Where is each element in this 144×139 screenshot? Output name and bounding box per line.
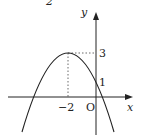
top-fragment-label: 2 xyxy=(45,0,53,8)
tick-label-neg2: −2 xyxy=(58,101,74,114)
origin-label: O xyxy=(86,101,95,114)
x-axis-label: x xyxy=(127,101,134,114)
parabola-diagram: 2 3 1 −2 O x y xyxy=(0,0,144,139)
tick-label-3: 3 xyxy=(99,47,106,60)
y-axis-label: y xyxy=(80,6,88,19)
x-axis-arrow-icon xyxy=(125,94,133,100)
tick-label-1: 1 xyxy=(99,76,106,89)
y-axis-arrow-icon xyxy=(93,12,99,20)
